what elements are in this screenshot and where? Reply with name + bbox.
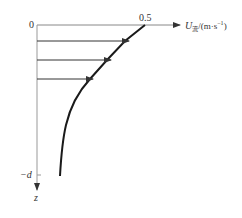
x-axis-unit: /(m·s: [198, 21, 217, 31]
x-tick-label: 0.5: [139, 12, 152, 23]
velocity-profile-curve: [60, 25, 145, 176]
depth-label: −d: [20, 169, 33, 180]
origin-label: 0: [29, 19, 34, 30]
x-axis-label: U流/(m·s−1): [185, 20, 227, 33]
z-axis-label: z: [33, 192, 38, 203]
velocity-profile-diagram: 0 0.5 U流/(m·s−1) −d z: [0, 0, 242, 218]
x-axis-unit-close: ): [224, 21, 227, 31]
